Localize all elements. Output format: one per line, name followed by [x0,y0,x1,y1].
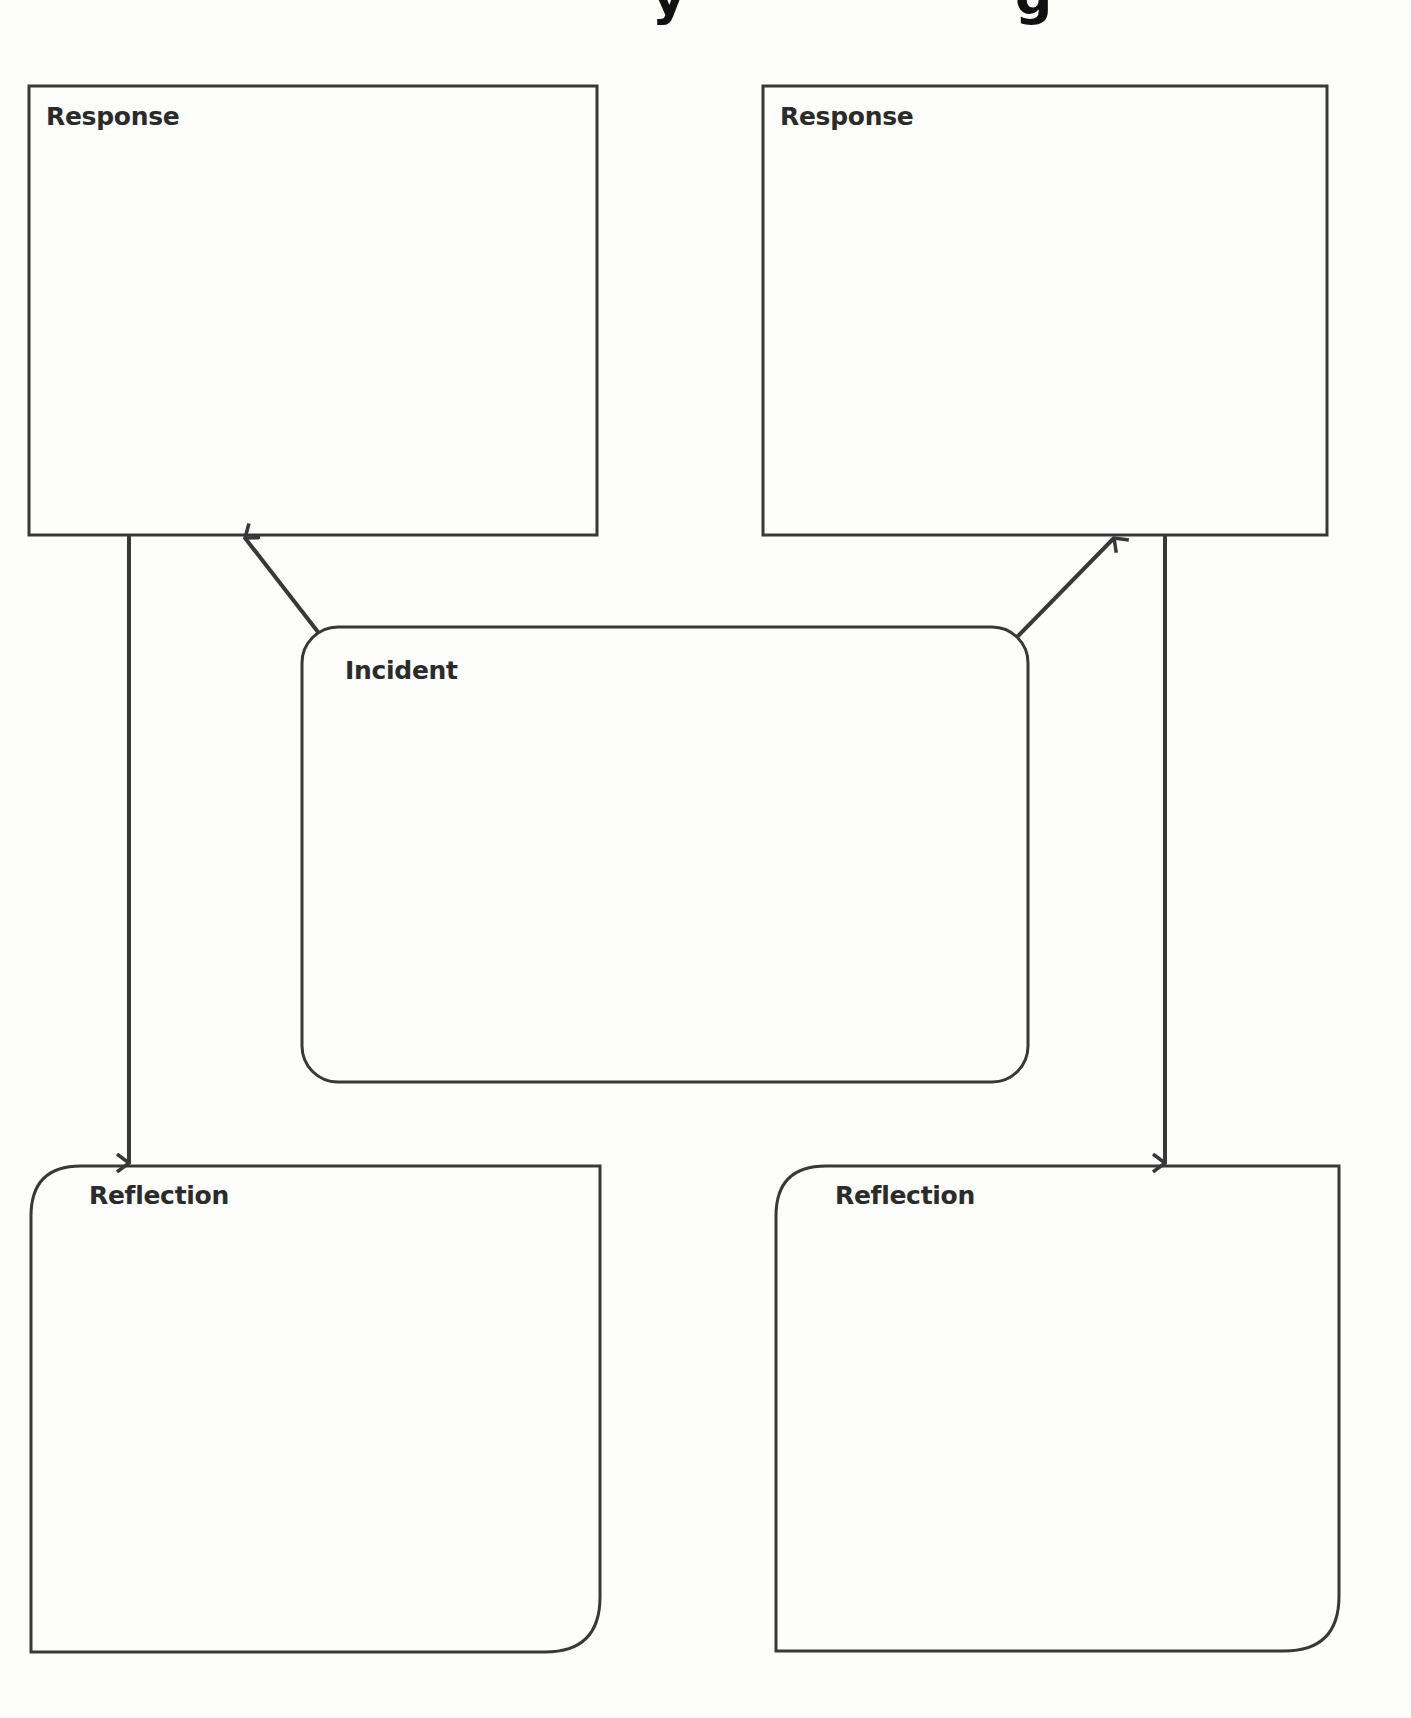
reflection-box-left[interactable] [31,1166,600,1652]
diagram-canvas [0,0,1411,1718]
arrow-incident-to-response-right [1017,538,1114,637]
response-right-label: Response [780,104,913,129]
incident-box[interactable] [302,627,1028,1082]
reflection-right-label: Reflection [835,1183,975,1208]
response-box-left[interactable] [29,86,597,535]
incident-label: Incident [345,658,458,683]
response-box-right[interactable] [763,86,1327,535]
reflection-left-label: Reflection [89,1183,229,1208]
reflection-box-right[interactable] [776,1166,1339,1651]
arrow-incident-to-response-left [245,538,318,632]
response-left-label: Response [46,104,179,129]
